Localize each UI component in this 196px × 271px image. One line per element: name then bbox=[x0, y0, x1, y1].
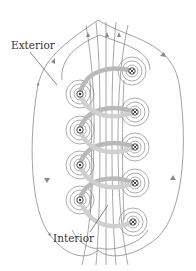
label-leaders bbox=[30, 52, 108, 232]
coil-turns bbox=[80, 69, 135, 226]
exterior-label: Exterior bbox=[11, 39, 55, 51]
exterior-leader bbox=[30, 52, 57, 85]
wire-dot-icon bbox=[77, 127, 83, 133]
wire-dot-icon bbox=[77, 91, 83, 97]
wire-cross-icon bbox=[132, 180, 138, 186]
wire-cross-icon bbox=[129, 68, 135, 74]
wire-dot-icon bbox=[77, 197, 83, 203]
interior-label: Interior bbox=[53, 232, 94, 244]
wire-cross-icon bbox=[132, 109, 138, 115]
wire-cross-icon bbox=[132, 144, 138, 150]
wire-dot-icon bbox=[77, 162, 83, 168]
wire-cross-icon bbox=[130, 219, 136, 225]
